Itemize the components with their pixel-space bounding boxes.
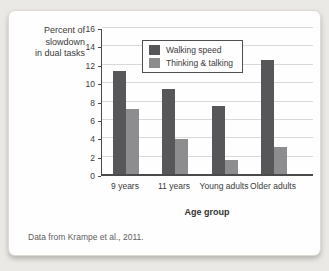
y-tick-mark — [98, 47, 101, 48]
x-axis-title: Age group — [101, 207, 313, 217]
bar-walking-speed — [261, 60, 274, 174]
y-tick-mark — [98, 29, 101, 30]
y-tick-mark — [98, 66, 101, 67]
x-tick-label: 9 years — [100, 181, 150, 191]
x-tick-label: Older adults — [248, 181, 298, 191]
y-tick-mark — [98, 176, 101, 177]
bar-walking-speed — [162, 89, 175, 174]
gridline — [102, 82, 313, 83]
y-tick-label: 14 — [71, 42, 95, 52]
y-tick-mark — [98, 84, 101, 85]
legend-swatch-walking-speed — [149, 45, 160, 55]
y-tick-label: 12 — [71, 61, 95, 71]
legend-label-walking-speed: Walking speed — [166, 45, 221, 55]
bar-thinking-talking — [274, 147, 287, 174]
y-tick-mark — [98, 139, 101, 140]
gridline — [102, 101, 313, 102]
legend-swatch-thinking-talking — [149, 58, 160, 68]
y-tick-label: 0 — [71, 171, 95, 181]
x-tick-label: 11 years — [149, 181, 199, 191]
y-tick-label: 10 — [71, 79, 95, 89]
figure-caption: Data from Krampe et al., 2011. — [28, 232, 144, 242]
y-tick-label: 8 — [71, 98, 95, 108]
y-tick-label: 6 — [71, 116, 95, 126]
bar-thinking-talking — [126, 109, 139, 174]
figure-card: Percent of slowdown in dual tasks Walkin… — [8, 10, 321, 256]
bar-thinking-talking — [175, 139, 188, 174]
y-tick-mark — [98, 121, 101, 122]
bar-walking-speed — [212, 106, 225, 174]
legend: Walking speed Thinking & talking — [142, 40, 243, 73]
gridline — [102, 27, 313, 28]
figure-background: Percent of slowdown in dual tasks Walkin… — [0, 0, 329, 271]
y-tick-mark — [98, 103, 101, 104]
y-tick-mark — [98, 158, 101, 159]
x-tick-label: Young adults — [199, 181, 249, 191]
y-tick-label: 16 — [71, 24, 95, 34]
legend-item-thinking-talking: Thinking & talking — [149, 58, 233, 68]
y-tick-label: 4 — [71, 134, 95, 144]
legend-label-thinking-talking: Thinking & talking — [166, 58, 233, 68]
bar-thinking-talking — [225, 160, 238, 174]
legend-item-walking-speed: Walking speed — [149, 45, 233, 55]
bar-walking-speed — [113, 71, 126, 174]
y-tick-label: 2 — [71, 153, 95, 163]
